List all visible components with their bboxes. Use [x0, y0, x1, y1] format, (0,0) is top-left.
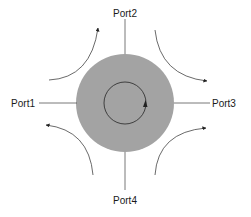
port3-label: Port3 — [212, 98, 236, 109]
port2-label: Port2 — [113, 8, 137, 19]
circulator-disc — [76, 54, 174, 152]
port1-label: Port1 — [11, 98, 35, 109]
port4-label: Port4 — [113, 195, 137, 206]
flow-arrow-port3-to-port4-icon — [155, 128, 206, 175]
circulator-diagram: Port1 Port2 Port3 Port4 — [0, 0, 251, 217]
